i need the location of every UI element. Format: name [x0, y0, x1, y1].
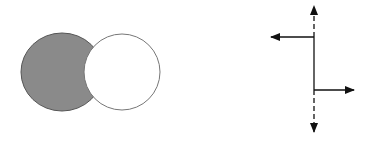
arrow-figure	[271, 6, 354, 132]
white-circle	[84, 34, 160, 110]
diagram-canvas	[0, 0, 375, 145]
overlap-figure	[21, 33, 160, 111]
